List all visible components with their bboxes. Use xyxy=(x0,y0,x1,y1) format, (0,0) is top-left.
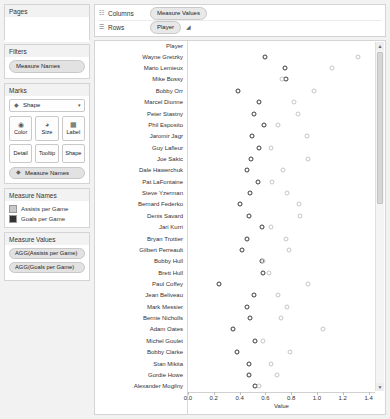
data-point[interactable] xyxy=(240,247,245,252)
data-point[interactable] xyxy=(253,338,258,343)
legend-item-assists[interactable]: Assists per Game xyxy=(9,205,85,213)
data-point[interactable] xyxy=(246,361,251,366)
row-label[interactable]: Pat LaFontaine xyxy=(142,179,183,185)
mark-type-select[interactable]: ◆ Shape ▾ xyxy=(9,99,85,112)
row-label[interactable]: Jaromir Jagr xyxy=(150,133,183,139)
row-label[interactable]: Bernard Federko xyxy=(138,201,183,207)
legend-item-goals[interactable]: Goals per Game xyxy=(9,215,85,223)
row-label[interactable]: Paul Coffey xyxy=(152,281,183,287)
row-label[interactable]: Gordie Howe xyxy=(148,372,183,378)
data-point[interactable] xyxy=(286,247,291,252)
data-point[interactable] xyxy=(262,122,267,127)
row-label[interactable]: Wayne Gretzky xyxy=(142,54,183,60)
scrollbar-thumb[interactable] xyxy=(377,52,383,204)
vertical-scrollbar[interactable]: ▲ ▼ xyxy=(375,42,384,391)
row-label[interactable]: Bernie Nicholls xyxy=(143,315,183,321)
data-point[interactable] xyxy=(287,350,292,355)
row-label[interactable]: Bryan Trottier xyxy=(147,236,183,242)
data-point[interactable] xyxy=(281,168,286,173)
data-point[interactable] xyxy=(282,66,287,71)
marks-color-button[interactable]: ◉ Color xyxy=(9,116,32,141)
data-point[interactable] xyxy=(268,225,273,230)
data-point[interactable] xyxy=(312,88,317,93)
sort-icon[interactable]: ◢ xyxy=(185,24,192,31)
row-label[interactable]: Mario Lemieux xyxy=(144,65,183,71)
marks-shape-button[interactable]: Shape xyxy=(62,144,85,163)
data-point[interactable] xyxy=(285,191,290,196)
data-point[interactable] xyxy=(256,145,261,150)
row-label[interactable]: Marcel Dionne xyxy=(144,99,183,105)
row-label[interactable]: Peter Stastny xyxy=(147,111,183,117)
row-label[interactable]: Joe Sakic xyxy=(157,156,183,162)
data-point[interactable] xyxy=(330,66,335,71)
data-point[interactable] xyxy=(274,372,279,377)
data-point[interactable] xyxy=(216,282,221,287)
data-point[interactable] xyxy=(260,270,265,275)
data-point[interactable] xyxy=(249,156,254,161)
measure-value-pill-goals[interactable]: AGG(Goals per Game) xyxy=(9,262,85,273)
data-point[interactable] xyxy=(237,202,242,207)
row-label[interactable]: Guy Lafleur xyxy=(152,145,183,151)
data-point[interactable] xyxy=(246,213,251,218)
columns-shelf[interactable]: ☷ Columns Measure Values xyxy=(98,7,382,20)
data-point[interactable] xyxy=(304,134,309,139)
data-point[interactable] xyxy=(268,361,273,366)
data-point[interactable] xyxy=(276,122,281,127)
row-label[interactable]: Stan Mikita xyxy=(153,361,183,367)
row-label[interactable]: Adam Oates xyxy=(150,326,183,332)
scroll-up-arrow[interactable]: ▲ xyxy=(376,42,384,50)
row-label[interactable]: Steve Yzerman xyxy=(142,190,183,196)
row-label[interactable]: Alexander Mogilny xyxy=(134,383,183,389)
marks-size-button[interactable]: ◕ Size xyxy=(35,116,58,141)
data-point[interactable] xyxy=(251,293,256,298)
data-point[interactable] xyxy=(263,54,268,59)
filters-drop-zone[interactable]: Measure Names xyxy=(5,57,89,78)
data-point[interactable] xyxy=(267,270,272,275)
marks-label-button[interactable]: ▦ Label xyxy=(62,116,85,141)
marks-pill-measure-names[interactable]: ◆ Measure Names xyxy=(9,167,85,179)
data-point[interactable] xyxy=(305,156,310,161)
columns-pill-measure-values[interactable]: Measure Values xyxy=(150,7,207,20)
data-point[interactable] xyxy=(278,316,283,321)
data-point[interactable] xyxy=(246,372,251,377)
row-label[interactable]: Jari Kurri xyxy=(159,224,183,230)
row-label[interactable]: Dale Hawerchuk xyxy=(139,167,183,173)
data-point[interactable] xyxy=(276,293,281,298)
data-point[interactable] xyxy=(285,304,290,309)
data-point[interactable] xyxy=(260,259,265,264)
row-label[interactable]: Brett Hull xyxy=(158,270,183,276)
marks-tooltip-button[interactable]: Tooltip xyxy=(35,144,58,163)
data-point[interactable] xyxy=(291,100,296,105)
data-point[interactable] xyxy=(321,327,326,332)
row-label[interactable]: Denis Savard xyxy=(147,213,183,219)
row-label[interactable]: Mike Bossy xyxy=(152,76,183,82)
row-label[interactable]: Mark Messier xyxy=(147,304,183,310)
rows-shelf[interactable]: ☰ Rows Player ◢ xyxy=(98,20,382,34)
row-label[interactable]: Bobby Orr xyxy=(156,88,183,94)
data-point[interactable] xyxy=(260,338,265,343)
rows-shelf-drop[interactable]: Player ◢ xyxy=(150,21,382,34)
data-point[interactable] xyxy=(296,202,301,207)
filter-pill-measure-names[interactable]: Measure Names xyxy=(9,60,85,73)
data-point[interactable] xyxy=(245,168,250,173)
row-label[interactable]: Bobby Hull xyxy=(154,258,183,264)
data-point[interactable] xyxy=(356,54,361,59)
data-point[interactable] xyxy=(295,111,300,116)
data-point[interactable] xyxy=(256,384,261,389)
row-label[interactable]: Jean Beliveau xyxy=(145,292,183,298)
columns-shelf-drop[interactable]: Measure Values xyxy=(150,7,382,20)
data-point[interactable] xyxy=(235,350,240,355)
pages-drop-zone[interactable] xyxy=(5,17,89,42)
data-point[interactable] xyxy=(255,179,260,184)
marks-detail-button[interactable]: Detail xyxy=(9,144,32,163)
row-label[interactable]: Bobby Clarke xyxy=(147,349,183,355)
data-point[interactable] xyxy=(251,111,256,116)
data-point[interactable] xyxy=(280,77,285,82)
data-point[interactable] xyxy=(231,327,236,332)
data-point[interactable] xyxy=(245,304,250,309)
data-point[interactable] xyxy=(298,213,303,218)
scroll-down-arrow[interactable]: ▼ xyxy=(376,383,384,391)
measure-value-pill-assists[interactable]: AGG(Assists per Game) xyxy=(9,248,85,259)
data-point[interactable] xyxy=(247,191,252,196)
data-point[interactable] xyxy=(256,100,261,105)
